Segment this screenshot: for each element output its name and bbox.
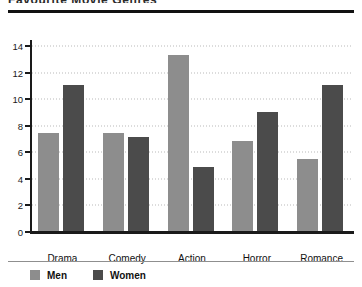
chart-legend: MenWomen — [30, 268, 146, 282]
bar-drama-women[interactable] — [63, 85, 84, 231]
bar-group — [30, 22, 95, 231]
x-tick-label-comedy: Comedy — [109, 253, 146, 264]
bar-drama-men[interactable] — [38, 133, 59, 231]
y-tick-label: 6 — [18, 147, 23, 158]
y-tick-label: 12 — [12, 67, 23, 78]
y-axis-labels: 02468101214 — [0, 14, 26, 239]
legend-label: Women — [110, 270, 146, 281]
bar-comedy-women[interactable] — [128, 137, 149, 231]
x-tick-label-horror: Horror — [243, 253, 271, 264]
bar-comedy-men[interactable] — [103, 133, 124, 231]
y-tick-label: 2 — [18, 200, 23, 211]
legend-label: Men — [47, 270, 67, 281]
bar-group — [224, 22, 289, 231]
legend-swatch-women — [93, 270, 103, 280]
bar-action-women[interactable] — [193, 167, 214, 231]
legend-divider — [8, 261, 354, 262]
y-tick-label: 8 — [18, 120, 23, 131]
y-tick-label: 10 — [12, 94, 23, 105]
bar-action-men[interactable] — [168, 55, 189, 231]
plot-area: 02468101214 DramaComedyActionHorrorRoman… — [0, 14, 362, 239]
y-tick-label: 0 — [18, 227, 23, 238]
bar-group — [95, 22, 160, 231]
bar-romance-women[interactable] — [322, 85, 343, 231]
x-tick-label-action: Action — [178, 253, 206, 264]
bar-romance-men[interactable] — [297, 159, 318, 231]
legend-item-men[interactable]: Men — [30, 270, 67, 281]
y-tick-label: 14 — [12, 41, 23, 52]
bar-group — [160, 22, 225, 231]
title-divider — [8, 10, 354, 13]
y-tick-label: 4 — [18, 173, 23, 184]
x-tick-label-romance: Romance — [300, 253, 343, 264]
bars-layer — [30, 14, 354, 239]
bar-horror-women[interactable] — [257, 112, 278, 231]
x-tick-label-drama: Drama — [47, 253, 77, 264]
bar-group — [289, 22, 354, 231]
legend-item-women[interactable]: Women — [93, 270, 146, 281]
bar-horror-men[interactable] — [232, 141, 253, 231]
chart-title: Favourite Movie Genres — [8, 0, 157, 3]
legend-swatch-men — [30, 270, 40, 280]
